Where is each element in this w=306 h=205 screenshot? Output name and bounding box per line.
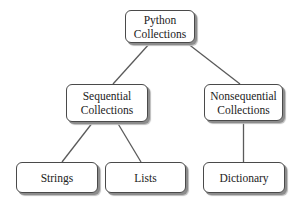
node-label-line1: Python bbox=[144, 13, 177, 27]
node-label: Lists bbox=[134, 171, 156, 185]
node-label-line1: Nonsequential bbox=[210, 89, 276, 103]
edge-root-to-sequential bbox=[113, 43, 150, 84]
node-nonsequential-collections: Nonsequential Collections bbox=[204, 84, 283, 121]
python-collections-diagram: Python Collections Sequential Collection… bbox=[0, 0, 306, 205]
node-label: Strings bbox=[41, 171, 74, 185]
node-python-collections: Python Collections bbox=[125, 10, 195, 43]
node-lists: Lists bbox=[105, 162, 186, 193]
node-label: Dictionary bbox=[219, 171, 268, 185]
node-strings: Strings bbox=[16, 162, 98, 193]
edge-sequential-to-lists bbox=[117, 122, 141, 162]
node-label-line2: Collections bbox=[217, 103, 269, 117]
node-sequential-collections: Sequential Collections bbox=[66, 84, 148, 122]
node-label-line2: Collections bbox=[134, 27, 186, 41]
edge-sequential-to-strings bbox=[62, 122, 93, 162]
node-label-line2: Collections bbox=[81, 103, 133, 117]
node-label-line1: Sequential bbox=[83, 89, 132, 103]
node-dictionary: Dictionary bbox=[203, 162, 285, 193]
edge-root-to-nonsequential bbox=[187, 43, 240, 84]
